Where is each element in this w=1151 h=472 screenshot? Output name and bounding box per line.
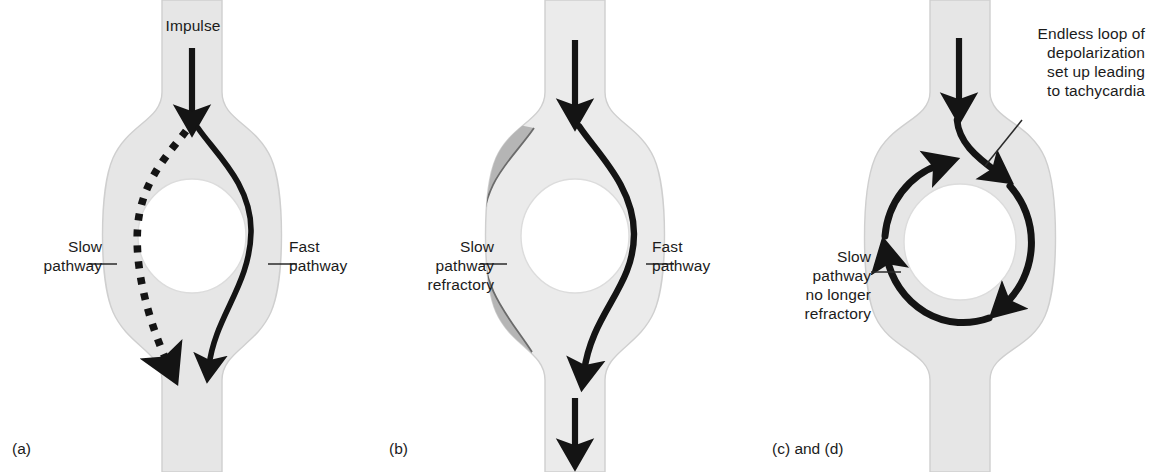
impulse-label: Impulse: [128, 16, 258, 35]
panel-a-caption: (a): [12, 440, 31, 458]
nodal-lumen: [904, 184, 1016, 300]
slow-pathway-refractory-label: Slow pathway refractory: [390, 237, 494, 294]
nodal-lumen: [138, 179, 246, 293]
panel-a: Impulse Slow pathway Fast pathway (a): [0, 0, 384, 472]
fast-pathway-label: Fast pathway: [289, 237, 381, 275]
fast-pathway-label: Fast pathway: [652, 237, 746, 275]
panel-b-graphic: [384, 0, 767, 472]
panel-c-caption: (c) and (d): [772, 440, 844, 458]
panel-b-caption: (b): [389, 440, 408, 458]
nodal-lumen: [521, 179, 629, 293]
avnrt-figure: Impulse Slow pathway Fast pathway (a): [0, 0, 1151, 472]
panel-a-graphic: [0, 0, 384, 472]
slow-pathway-label: Slow pathway: [6, 237, 102, 275]
panel-c: Slow pathway no longer refractory Endles…: [767, 0, 1151, 472]
endless-loop-annotation: Endless loop of depolarization set up le…: [973, 24, 1145, 100]
slow-pathway-no-longer-refractory-label: Slow pathway no longer refractory: [771, 247, 871, 323]
panel-b: Slow pathway refractory Fast pathway (b): [384, 0, 767, 472]
